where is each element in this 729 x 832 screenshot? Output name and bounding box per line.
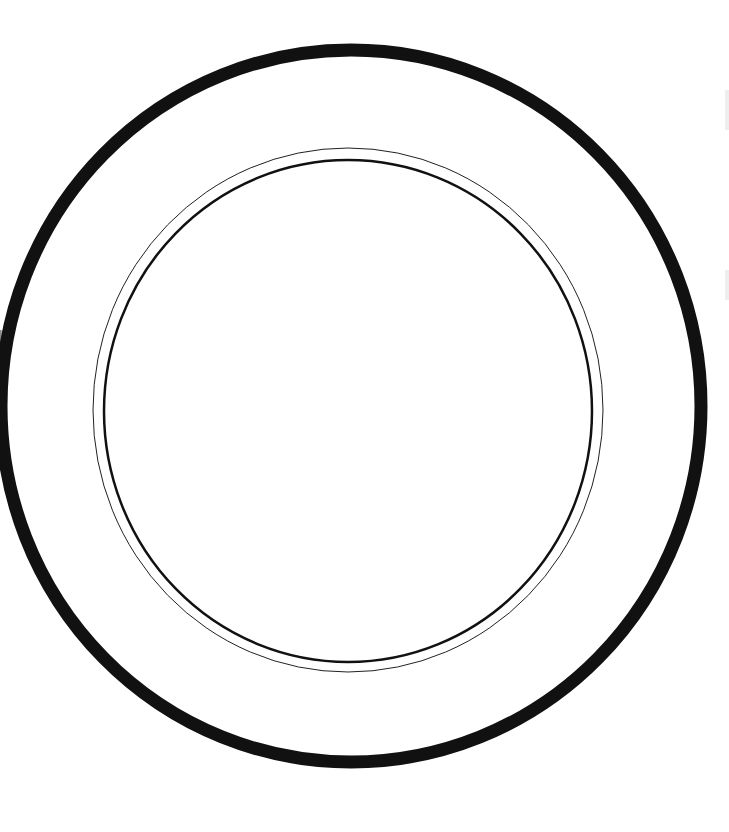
plate-well-thin-ring [93,148,603,672]
plate-illustration [0,0,729,832]
plate-drawing-canvas [0,0,729,832]
plate-outer-rim [1,50,701,762]
plate-well-inner-ring [104,160,592,662]
